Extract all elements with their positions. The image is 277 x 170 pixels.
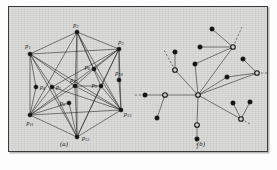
panel-a-edge: [30, 115, 77, 137]
panel-b-filled-vertex: [198, 45, 203, 50]
panel-a-vertex-label: p1: [24, 42, 30, 50]
panel-a-vertex: [28, 113, 32, 117]
panel-b-filled-vertex: [225, 75, 230, 80]
panel-a-edge: [52, 87, 77, 137]
panel-a-vertex: [92, 67, 96, 71]
panel-a-vertex-label: p11: [25, 119, 33, 127]
panel-a-label-group: p1p2p3p4p5p6p7p8p9p10p11p12p13: [24, 21, 132, 142]
panel-a-vertex: [73, 84, 77, 88]
panel-a-edge: [94, 49, 119, 69]
panel-caption-b: (b): [197, 140, 206, 148]
panel-b-filled-vertex: [173, 50, 178, 55]
vertex-label-subscript: 7: [73, 79, 76, 84]
vertex-label-subscript: 9: [95, 84, 98, 89]
panel-a-vertex: [34, 85, 38, 89]
panel-b-edge: [212, 29, 233, 47]
vertex-label-subscript: 1: [28, 45, 30, 50]
panel-a-vertex-label: p8: [84, 63, 91, 71]
panel-a-edge: [30, 32, 77, 54]
panel-b-hollow-vertex: [195, 123, 200, 128]
panel-b-hollow-vertex: [239, 117, 244, 122]
panel-caption-a: (a): [60, 140, 69, 148]
panel-a-edge: [30, 86, 75, 115]
panel-b-hollow-vertex: [173, 68, 178, 73]
panel-a-vertex-label: p13: [123, 110, 132, 118]
vertex-label-subscript: 10: [118, 72, 123, 77]
vertex-label-subscript: 3: [121, 41, 124, 46]
panel-b-edge: [157, 95, 165, 118]
panel-b-filled-vertex: [155, 116, 160, 121]
panel-b-edge: [195, 64, 198, 95]
panel-a-vertex-label: p9: [91, 81, 98, 89]
panel-b-edge: [198, 47, 233, 95]
figure-root: p1p2p3p4p5p6p7p8p9p10p11p12p13 (a)(b): [0, 0, 277, 170]
vertex-label-subscript: 11: [30, 122, 34, 127]
panel-a-vertex: [28, 52, 32, 56]
panel-b-node-group: [143, 27, 260, 142]
panel-b-filled-vertex: [143, 93, 148, 98]
panel-b-hollow-vertex: [255, 71, 260, 76]
panel-b-filled-vertex: [193, 62, 198, 67]
panel-a-vertex: [75, 30, 79, 34]
panel-a-edge: [101, 49, 119, 86]
panel-a-edge: [30, 54, 75, 86]
panel-b-hollow-vertex: [163, 93, 168, 98]
panel-b-edge: [195, 47, 233, 64]
panel-a-vertex-label: p5: [55, 83, 62, 91]
panel-b-filled-vertex: [210, 27, 215, 32]
panel-b-filled-vertex: [248, 100, 253, 105]
panel-a-vertex-label: p4: [39, 83, 46, 91]
panel-b-edge: [197, 95, 198, 125]
panel-a-vertex: [117, 47, 121, 51]
panel-b-edge: [198, 95, 241, 119]
graph-canvas: p1p2p3p4p5p6p7p8p9p10p11p12p13 (a)(b): [9, 7, 267, 151]
panel-b-hollow-vertex: [231, 45, 236, 50]
panel-a-edge: [30, 54, 77, 137]
panel-a-vertex: [75, 135, 79, 139]
panel-a-vertex: [99, 84, 103, 88]
panel-a-vertex: [117, 78, 121, 82]
panel-b-edge: [243, 59, 257, 73]
vertex-label-subscript: 12: [85, 137, 90, 142]
panel-b-filled-vertex: [231, 101, 236, 106]
panel-b-filled-vertex: [241, 57, 246, 62]
panel-a-edge: [30, 49, 119, 54]
panel-a-vertex-label: p12: [81, 134, 90, 142]
vertex-label-subscript: 2: [76, 24, 79, 29]
panel-a-vertex-label: p2: [72, 21, 79, 29]
panel-a-vertex: [119, 108, 123, 112]
vertex-label-subscript: 13: [127, 113, 132, 118]
vertex-label-subscript: 6: [63, 102, 66, 107]
panel-b-dashed-edge: [233, 27, 242, 47]
panel-a-vertex-label: p3: [117, 38, 124, 46]
panel-a-vertex-label: p6: [59, 99, 66, 107]
figure-plate: p1p2p3p4p5p6p7p8p9p10p11p12p13 (a)(b): [8, 6, 268, 152]
panel-b-edge: [175, 70, 198, 95]
panel-a-vertex: [67, 101, 71, 105]
panel-a-vertex: [50, 85, 54, 89]
panel-b-edge: [241, 102, 250, 119]
panel-b-edge: [227, 73, 257, 77]
panel-caption-group: (a)(b): [60, 140, 206, 148]
panel-b-hollow-vertex: [196, 93, 201, 98]
